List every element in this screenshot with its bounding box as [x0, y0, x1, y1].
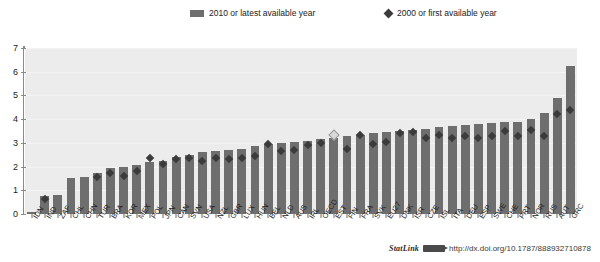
y-tick-label: 7: [13, 44, 18, 53]
statlink-url[interactable]: http://dx.doi.org/10.1787/888932710878: [449, 244, 591, 253]
bar-group[interactable]: [277, 48, 286, 214]
y-axis-labels: 01234567: [0, 48, 22, 214]
bar-group[interactable]: [487, 48, 496, 214]
legend-entry-points: 2000 or first available year: [385, 8, 497, 18]
bar[interactable]: [566, 66, 575, 214]
bar[interactable]: [540, 113, 549, 214]
y-tick-label: 2: [13, 162, 18, 171]
legend-entry-bars: 2010 or latest available year: [190, 8, 315, 18]
bar-group[interactable]: [211, 48, 220, 214]
bar-group[interactable]: [93, 48, 102, 214]
bar-group[interactable]: [435, 48, 444, 214]
y-tick-label: 5: [13, 91, 18, 100]
y-tick-label: 4: [13, 115, 18, 124]
bar-group[interactable]: [474, 48, 483, 214]
statlink-arrow-icon: [423, 245, 445, 252]
bar-group[interactable]: [185, 48, 194, 214]
bar-group[interactable]: [251, 48, 260, 214]
bar-group[interactable]: [395, 48, 404, 214]
bar-group[interactable]: [500, 48, 509, 214]
bar-group[interactable]: [237, 48, 246, 214]
bar-group[interactable]: [159, 48, 168, 214]
bar[interactable]: [356, 135, 365, 214]
bar-group[interactable]: [408, 48, 417, 214]
y-tick-label: 3: [13, 138, 18, 147]
bar[interactable]: [316, 139, 325, 214]
bar-group[interactable]: [316, 48, 325, 214]
x-tick-label: ITA: [452, 207, 464, 220]
legend-point-label: 2000 or first available year: [397, 8, 497, 18]
bar-group[interactable]: [566, 48, 575, 214]
bar-group[interactable]: [382, 48, 391, 214]
legend-bar-swatch-icon: [190, 10, 204, 17]
bar-group[interactable]: [421, 48, 430, 214]
bar-group[interactable]: [53, 48, 62, 214]
y-tick-label: 1: [13, 186, 18, 195]
bar-group[interactable]: [67, 48, 76, 214]
bar[interactable]: [303, 141, 312, 215]
bar-group[interactable]: [356, 48, 365, 214]
bar-group[interactable]: [329, 48, 338, 214]
bar-group[interactable]: [343, 48, 352, 214]
bar-group[interactable]: [513, 48, 522, 214]
bar-group[interactable]: [290, 48, 299, 214]
chart-legend: 2010 or latest available year 2000 or fi…: [0, 0, 600, 30]
y-tick-label: 0: [13, 210, 18, 219]
statlink-footer: StatLink http://dx.doi.org/10.1787/88893…: [389, 244, 591, 253]
x-axis-labels: IDNINDZAFCHLCHNTURBRAKORMEXPOLJPNCANSVNU…: [24, 214, 576, 248]
bar-group[interactable]: [264, 48, 273, 214]
plot-area: [24, 48, 577, 214]
bar-group[interactable]: [369, 48, 378, 214]
bar-group[interactable]: [224, 48, 233, 214]
bar-group[interactable]: [145, 48, 154, 214]
bar-group[interactable]: [172, 48, 181, 214]
bar-series: [25, 48, 577, 214]
bar-group[interactable]: [461, 48, 470, 214]
chart-figure: 2010 or latest available year 2000 or fi…: [0, 0, 600, 262]
legend-diamond-swatch-icon: [384, 8, 394, 18]
legend-bar-label: 2010 or latest available year: [209, 8, 315, 18]
bar-group[interactable]: [553, 48, 562, 214]
y-tick-label: 6: [13, 67, 18, 76]
bar-group[interactable]: [27, 48, 36, 214]
bar-group[interactable]: [303, 48, 312, 214]
bar-group[interactable]: [119, 48, 128, 214]
bar-group[interactable]: [132, 48, 141, 214]
bar-group[interactable]: [198, 48, 207, 214]
bar-group[interactable]: [80, 48, 89, 214]
bar-group[interactable]: [106, 48, 115, 214]
bar-group[interactable]: [448, 48, 457, 214]
bar-group[interactable]: [527, 48, 536, 214]
statlink-label: StatLink: [389, 244, 419, 253]
bar[interactable]: [435, 127, 444, 214]
bar-group[interactable]: [540, 48, 549, 214]
bar[interactable]: [408, 130, 417, 214]
bar-group[interactable]: [40, 48, 49, 214]
